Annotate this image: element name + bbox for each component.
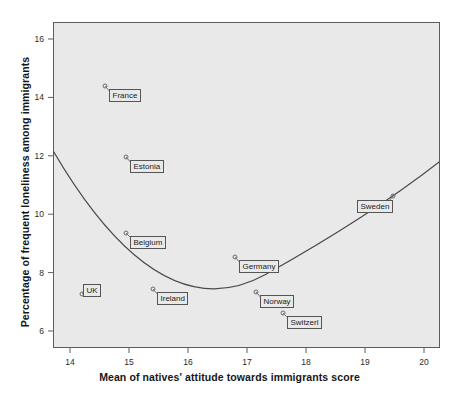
point-label-belgium[interactable]: Belgium: [130, 236, 166, 249]
point-label-ireland[interactable]: Ireland: [157, 292, 188, 305]
data-point-germany[interactable]: [233, 255, 238, 260]
point-label-switzerland[interactable]: Switzerl: [287, 316, 322, 329]
point-label-norway[interactable]: Norway: [260, 295, 294, 308]
y-tick-label-16: 16: [26, 34, 44, 44]
x-tick-label-19: 19: [355, 357, 375, 367]
scatter-plot-figure: Percentage of frequent loneliness among …: [0, 0, 459, 400]
data-point-belgium[interactable]: [124, 231, 129, 236]
x-tick-label-20: 20: [414, 357, 434, 367]
data-point-sweden[interactable]: [391, 194, 396, 199]
y-tick-label-10: 10: [26, 209, 44, 219]
callout-leader-lines: [82, 86, 393, 320]
data-point-norway[interactable]: [254, 290, 259, 295]
point-label-uk[interactable]: UK: [83, 284, 101, 297]
data-point-france[interactable]: [103, 84, 108, 89]
y-tick-label-6: 6: [26, 326, 44, 336]
point-label-france[interactable]: France: [109, 89, 141, 102]
x-tick-label-16: 16: [178, 357, 198, 367]
x-tick-label-17: 17: [237, 357, 257, 367]
point-label-sweden[interactable]: Sweden: [357, 200, 393, 213]
y-tick-label-12: 12: [26, 151, 44, 161]
point-label-estonia[interactable]: Estonia: [130, 160, 164, 173]
data-point-estonia[interactable]: [124, 155, 129, 160]
x-axis-ticks: [70, 348, 424, 353]
x-tick-label-14: 14: [60, 357, 80, 367]
y-tick-label-8: 8: [26, 268, 44, 278]
data-point-ireland[interactable]: [151, 287, 156, 292]
x-tick-label-18: 18: [296, 357, 316, 367]
y-axis-ticks: [48, 39, 53, 331]
y-tick-label-14: 14: [26, 92, 44, 102]
x-tick-label-15: 15: [119, 357, 139, 367]
point-label-germany[interactable]: Germany: [239, 260, 279, 273]
data-point-switzerland[interactable]: [281, 311, 286, 316]
